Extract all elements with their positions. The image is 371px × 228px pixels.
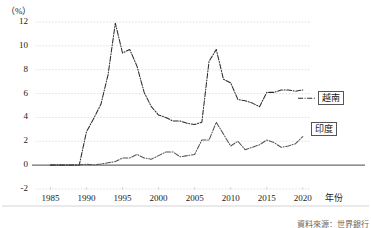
- y-axis-tick-10: 10: [4, 41, 28, 50]
- y-axis-tick-6: 6: [4, 89, 28, 98]
- x-axis-tick-2020: 2020: [283, 194, 323, 203]
- y-axis-tick-0: 0: [4, 160, 28, 169]
- x-axis-tick-1995: 1995: [103, 194, 143, 203]
- y-axis-tick-neg2: -2: [4, 184, 28, 193]
- y-axis-tick-2: 2: [4, 136, 28, 145]
- y-axis-tick-12: 12: [4, 17, 28, 26]
- x-axis-tick-1990: 1990: [66, 194, 106, 203]
- chart-container: （%） -2024681012 198519901995200020052010…: [0, 0, 371, 228]
- source-note: 資料來源：世界銀行: [297, 218, 369, 228]
- x-axis-tick-2005: 2005: [175, 194, 215, 203]
- x-axis-tick-1985: 1985: [30, 194, 70, 203]
- x-axis-tick-2010: 2010: [211, 194, 251, 203]
- legend-item-india: 印度: [311, 122, 337, 136]
- y-axis-tick-4: 4: [4, 112, 28, 121]
- legend-item-vietnam: 越南: [318, 91, 344, 105]
- x-axis-title: 年份: [325, 194, 343, 203]
- y-axis-tick-8: 8: [4, 65, 28, 74]
- x-axis-tick-2000: 2000: [139, 194, 179, 203]
- x-axis-tick-2015: 2015: [247, 194, 287, 203]
